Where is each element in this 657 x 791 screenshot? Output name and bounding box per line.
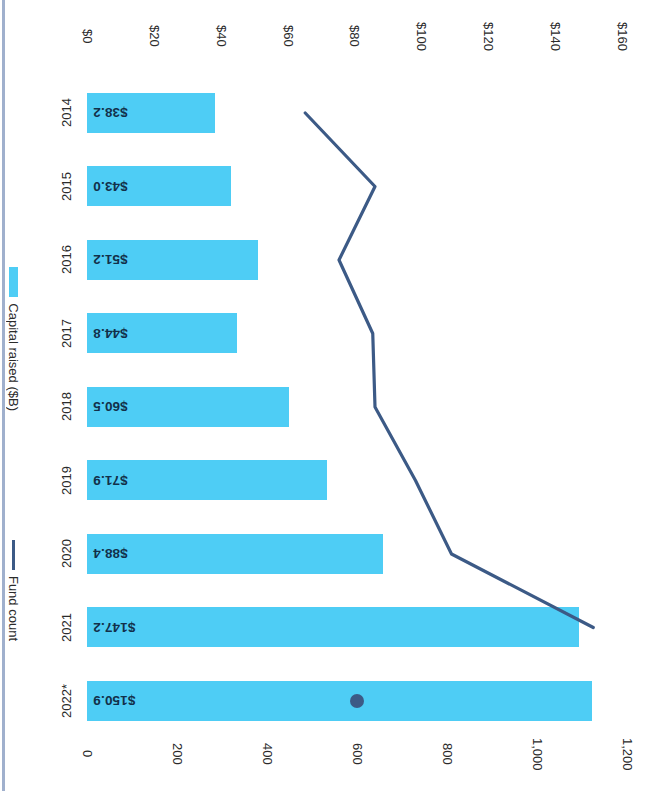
bar-row: $147.22021 [0, 600, 657, 656]
bar-value-label: $38.2 [93, 93, 128, 133]
bar-value-label: $88.4 [93, 534, 128, 574]
bar-value-label: $71.9 [93, 461, 128, 501]
bar-capital-raised-2021 [87, 608, 579, 648]
bar-capital-raised-2020 [87, 534, 383, 574]
bar-row: $44.82017 [0, 306, 657, 362]
legend-line-swatch-icon [12, 540, 15, 570]
legend-bar-swatch-icon [9, 267, 18, 297]
legend-label: Capital raised ($B) [6, 303, 21, 411]
bar-value-label: $51.2 [93, 240, 128, 280]
bar-row: $60.52018 [0, 379, 657, 435]
bar-value-label: $147.2 [93, 608, 136, 648]
bar-value-label: $43.0 [93, 167, 128, 207]
legend-item-capital-raised: Capital raised ($B) [6, 267, 21, 411]
bar-row: $51.22016 [0, 232, 657, 288]
legend-item-fund-count: Fund count [6, 540, 21, 641]
bar-row: $43.02015 [0, 159, 657, 215]
bar-row: $88.42020 [0, 526, 657, 582]
scanned-chart-page: 02004006008001,0001,200 $0$20$40$60$80$1… [0, 0, 657, 791]
legend-label: Fund count [6, 576, 21, 641]
bar-value-label: $150.9 [93, 681, 136, 721]
bar-value-label: $60.5 [93, 387, 128, 427]
page-sheet: 02004006008001,0001,200 $0$20$40$60$80$1… [0, 0, 657, 791]
bar-capital-raised-2022 [87, 681, 592, 721]
bar-row: $71.92019 [0, 453, 657, 509]
bar-row: $38.22014 [0, 85, 657, 141]
bars-layer: $150.92022*$147.22021$88.42020$71.92019$… [0, 0, 657, 791]
bar-value-label: $44.8 [93, 314, 128, 354]
bar-row: $150.92022* [0, 673, 657, 729]
chart-legend: Capital raised ($B)Fund count [6, 0, 54, 791]
